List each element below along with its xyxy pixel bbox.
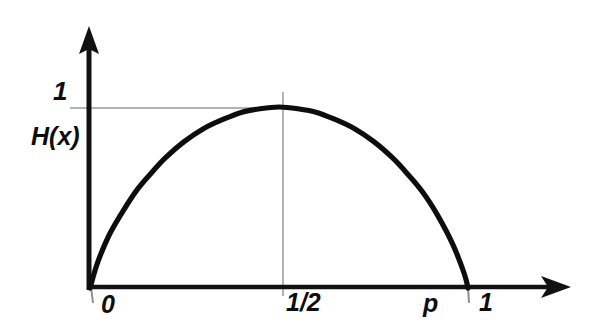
x-axis-tick-label-half: 1/2 (286, 290, 321, 315)
x-axis-tick-label-p: p (423, 291, 438, 316)
x-axis-tick-label-zero: 0 (101, 292, 115, 317)
entropy-curve (90, 107, 468, 288)
y-axis-label: H(x) (31, 124, 80, 149)
x-axis-tick-label-one: 1 (479, 290, 493, 315)
entropy-function-figure: 1 H(x) 0 1/2 p 1 (0, 0, 594, 334)
plot-canvas (0, 0, 594, 334)
y-axis-tick-label-one: 1 (53, 78, 67, 104)
